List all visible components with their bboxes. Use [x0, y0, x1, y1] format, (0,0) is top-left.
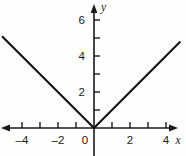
- y-axis-tick-label-6: 6: [79, 14, 85, 26]
- curve-group: [2, 36, 180, 128]
- x-axis-tick-label-neg2: –2: [52, 134, 65, 146]
- y-axis-tick-label-2: 2: [79, 86, 85, 98]
- y-axis-arrowhead-icon: [91, 4, 98, 13]
- x-axis-tick-label-pos4: 4: [163, 134, 170, 146]
- graph-figure: 2 4 6 y –4 –2 0 2 4: [0, 0, 186, 156]
- curve-right-branch: [94, 42, 180, 128]
- y-axis-group: 2 4 6 y: [79, 1, 107, 156]
- coordinate-plane-svg: 2 4 6 y –4 –2 0 2 4: [0, 0, 186, 156]
- x-axis-label: x: [174, 134, 181, 146]
- origin-label: 0: [82, 134, 88, 146]
- x-axis-arrowhead-right-icon: [169, 125, 178, 132]
- y-axis-tick-label-4: 4: [79, 50, 86, 62]
- y-axis-label: y: [100, 1, 107, 14]
- x-axis-tick-label-neg4: –4: [16, 134, 29, 146]
- x-axis-tick-label-pos2: 2: [127, 134, 133, 146]
- x-axis-arrowhead-left-icon: [1, 125, 10, 132]
